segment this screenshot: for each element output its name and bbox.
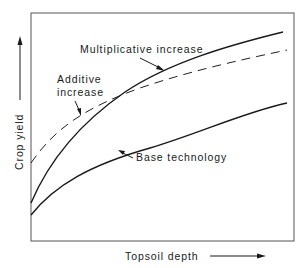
y-axis-arrowhead-icon xyxy=(18,36,23,45)
y-axis-label: Crop yield xyxy=(13,114,25,170)
multiplicative-increase-curve xyxy=(31,32,283,203)
multiplicative-pointer-arrowhead-icon xyxy=(156,65,165,71)
additive-increase-label-line2: increase xyxy=(57,86,104,98)
additive-increase-label-line1: Additive xyxy=(57,73,102,85)
x-axis-arrowhead-icon xyxy=(257,254,266,259)
multiplicative-increase-label: Multiplicative increase xyxy=(80,43,203,55)
x-axis-label: Topsoil depth xyxy=(125,250,199,262)
chart-canvas xyxy=(0,0,306,268)
base-pointer-arrowhead-icon xyxy=(118,150,125,155)
chart-figure: Multiplicative increase Additive increas… xyxy=(0,0,306,268)
additive-pointer-arrowhead-icon xyxy=(77,108,81,116)
base-technology-label: Base technology xyxy=(136,151,227,163)
